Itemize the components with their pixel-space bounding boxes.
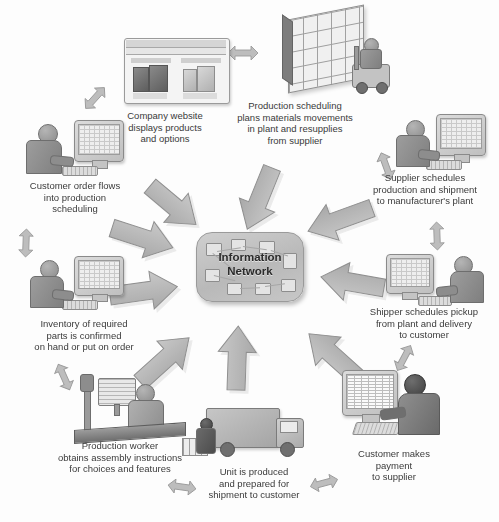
monitor [386,254,434,294]
hub-node-icon [281,279,296,292]
truck-wheel [280,442,295,457]
forklift-mast [354,46,359,70]
illustration-website-screenshot [124,38,228,104]
product-image [149,65,168,92]
illustration-supplier-person-computer [392,110,492,172]
product-caption [131,58,171,63]
monitor [74,256,124,296]
forklift-wheel [356,82,368,94]
label-shipper-schedules: Shipper schedules pickup from plant and … [348,306,499,341]
truck-windshield [280,421,298,433]
browser-window [124,38,230,104]
keyboard [62,166,98,176]
arrow-bidir-supplier-shipper [430,222,445,250]
arrow-unit-produced-to-hub [217,325,257,390]
illustration-inventory-person-computer [26,252,130,312]
product-image [197,66,215,92]
illustration-production-worker [74,372,186,442]
monitor [74,120,124,162]
forklift-driver-body [360,49,382,69]
warehouse-rack-side [282,14,293,85]
monitor-screen [440,118,482,149]
arrow-bidir-order-website [80,83,109,113]
illustration-warehouse-forklift [282,6,390,98]
product-image [183,69,197,92]
product-text [133,93,167,99]
scanner-head [80,374,94,392]
panel-mount [114,404,120,416]
browser-tabstrip [126,48,226,55]
label-inventory-confirmed: Inventory of required parts is confirmed… [8,318,160,353]
product-image [133,67,149,92]
illustration-shipper-person-computer [384,248,488,306]
keyboard [426,160,462,170]
label-customer-order: Customer order flows into production sch… [4,180,146,215]
forklift-wheel [376,82,388,94]
keyboard [62,300,98,310]
hub-label-line2: Network [227,265,272,277]
arrow-bidir-website-production [228,46,258,60]
label-production-scheduling: Production scheduling plans materials mo… [216,100,374,146]
monitor [436,114,486,156]
monitor-screen [78,124,120,155]
person-arm [52,289,75,301]
person-arm [418,149,441,161]
monitor-screen [390,258,430,287]
diagram-canvas: Information Network Company website disp… [0,0,499,522]
hub-label-line1: Information [218,251,281,263]
browser-toolbar [126,40,226,48]
arrow-company-website-to-hub [138,171,208,239]
product-text [183,93,217,99]
arrow-bidir-worker-inventory [52,361,76,392]
keyboard [352,422,402,435]
hub-label: Information Network [197,251,303,278]
label-customer-payment: Customer makes payment to supplier [328,448,460,483]
keyboard [418,296,452,306]
information-network-hub: Information Network [196,232,304,302]
product-caption [181,58,221,63]
arrow-shipper-schedules-to-hub [318,258,388,307]
monitor-stand [402,292,418,300]
label-supplier-schedules: Supplier schedules production and shipme… [352,172,498,207]
monitor-screen [78,260,120,289]
truck-cargo-box [206,408,280,448]
label-unit-produced: Unit is produced and prepared for shipme… [182,466,326,501]
illustration-customer-payment [336,366,444,446]
spreadsheet-screen [346,374,394,409]
arrow-production-scheduling-to-hub [230,161,290,236]
label-production-worker: Production worker obtains assembly instr… [38,440,202,475]
truck-wheel [220,442,235,457]
illustration-customer-order-person-computer [22,114,126,176]
